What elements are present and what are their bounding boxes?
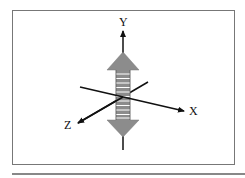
x-axis-label: X	[189, 104, 198, 118]
y-axis-label: Y	[119, 15, 128, 29]
z-axis-label: Z	[64, 118, 71, 132]
bottom-rule	[12, 173, 245, 175]
axes-diagram: Y X Z	[0, 0, 245, 178]
